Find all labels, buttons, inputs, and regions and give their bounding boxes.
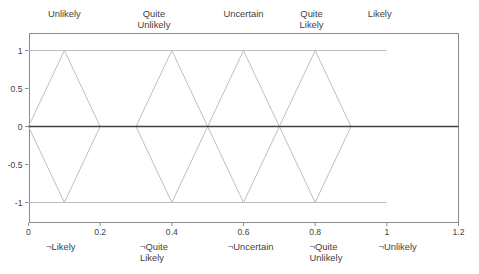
y-tick-neg1: -1 xyxy=(0,198,23,207)
membership-1-positive xyxy=(136,51,208,127)
x-tick-0-2: 0.2 xyxy=(94,228,106,237)
x-tick-1: 1 xyxy=(384,228,389,237)
bottom-label-not-quite-unlikely: ¬Quite Unlikely xyxy=(309,241,342,263)
x-tick-0-8: 0.8 xyxy=(309,228,321,237)
bottom-label-not-unlikely: ¬Unlikely xyxy=(378,241,416,252)
x-tick-0-6: 0.6 xyxy=(238,228,250,237)
x-tick-0: 0 xyxy=(26,228,31,237)
membership-0-positive xyxy=(29,51,101,127)
membership-3-positive xyxy=(279,51,351,127)
fuzzy-membership-chart: Unlikely Quite Unlikely Uncertain Quite … xyxy=(0,0,479,274)
y-tick-1: 1 xyxy=(0,46,23,55)
bottom-label-not-likely: ¬Likely xyxy=(46,241,75,252)
x-tick-0-4: 0.4 xyxy=(166,228,178,237)
membership-0-negative xyxy=(29,127,101,203)
y-tick-neg0-5: -0.5 xyxy=(0,160,23,169)
membership-3-negative xyxy=(279,127,351,203)
membership-1-negative xyxy=(136,127,208,203)
y-tick-0-5: 0.5 xyxy=(0,84,23,93)
membership-2-negative xyxy=(208,127,280,203)
membership-2-positive xyxy=(208,51,280,127)
y-tick-0: 0 xyxy=(0,122,23,131)
bottom-label-not-quite-likely: ¬Quite Likely xyxy=(140,241,168,263)
bottom-label-not-uncertain: ¬Uncertain xyxy=(228,241,274,252)
x-tick-1-2: 1.2 xyxy=(453,228,465,237)
